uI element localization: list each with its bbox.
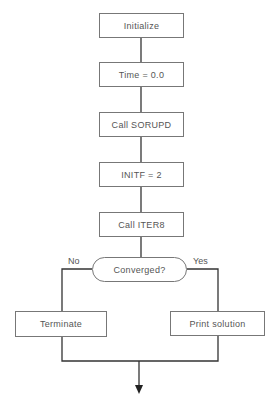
step-call-iter8: Call ITER8: [99, 212, 184, 237]
step-label: Terminate: [40, 319, 82, 329]
decision-label: Converged?: [113, 265, 165, 275]
step-label: Time = 0.0: [119, 70, 164, 80]
arrow-down-icon: [135, 385, 143, 394]
step-initialize: Initialize: [99, 13, 184, 38]
step-label: Initialize: [124, 21, 160, 31]
no-branch-label: No: [68, 256, 80, 266]
step-terminate: Terminate: [15, 311, 107, 337]
step-call-sorupd: Call SORUPD: [99, 112, 184, 137]
step-time: Time = 0.0: [99, 62, 184, 87]
decision-converged: Converged?: [92, 257, 187, 282]
step-label: INITF = 2: [121, 170, 161, 180]
step-label: Call ITER8: [118, 220, 165, 230]
yes-branch-label: Yes: [193, 256, 208, 266]
step-print-solution: Print solution: [170, 311, 265, 336]
step-label: Print solution: [189, 319, 245, 329]
connector-lines: [0, 0, 280, 397]
step-label: Call SORUPD: [112, 120, 172, 130]
step-initf: INITF = 2: [99, 162, 184, 187]
